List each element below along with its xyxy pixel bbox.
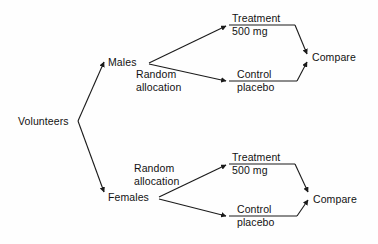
edge-females-control-to-compare (297, 200, 308, 216)
annotation-males-random-line2: allocation (136, 81, 181, 94)
edge-volunteers-to-females (78, 121, 104, 192)
annotation-males-random-line1: Random (136, 68, 181, 81)
node-males: Males (108, 57, 137, 69)
node-females-control: Control placebo (237, 203, 274, 228)
node-females: Females (108, 192, 149, 204)
edge-volunteers-to-males (78, 62, 104, 121)
node-males-control: Control placebo (237, 68, 274, 93)
annotation-males-random-allocation: Random allocation (136, 68, 181, 93)
annotation-females-random-line2: allocation (134, 175, 179, 188)
node-males-control-line1: Control (237, 68, 274, 81)
node-females-treatment-line1: Treatment (232, 151, 280, 164)
node-females-control-line1: Control (237, 203, 274, 216)
node-females-treatment: Treatment 500 mg (232, 151, 280, 176)
node-males-control-line2: placebo (237, 81, 274, 94)
node-females-treatment-line2: 500 mg (232, 164, 280, 177)
experiment-flow-diagram: Volunteers Males Random allocation Treat… (0, 0, 378, 244)
node-females-control-line2: placebo (237, 216, 274, 229)
node-males-treatment-line2: 500 mg (232, 25, 280, 38)
edge-females-to-control (159, 199, 226, 216)
edge-males-control-to-compare (297, 62, 307, 81)
node-males-treatment-line1: Treatment (232, 12, 280, 25)
node-males-compare: Compare (312, 52, 356, 64)
edge-males-to-treatment (149, 26, 226, 63)
annotation-females-random-line1: Random (134, 162, 179, 175)
annotation-females-random-allocation: Random allocation (134, 162, 179, 187)
node-volunteers: Volunteers (18, 116, 69, 128)
edge-females-treatment-to-compare (295, 164, 308, 192)
node-females-compare: Compare (313, 194, 357, 206)
edge-males-treatment-to-compare (295, 25, 307, 54)
node-males-treatment: Treatment 500 mg (232, 12, 280, 37)
